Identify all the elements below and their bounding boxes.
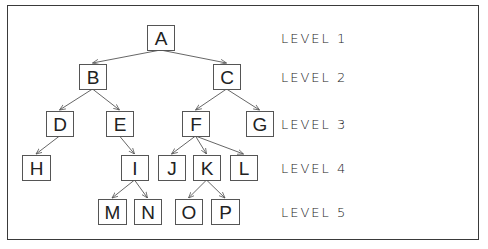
node-label: A — [155, 28, 168, 49]
node-label: P — [219, 202, 232, 223]
node-label: G — [253, 114, 268, 135]
node-k: K — [194, 156, 221, 181]
node-label: K — [201, 158, 214, 179]
edge-k-o — [189, 180, 207, 198]
node-label: M — [105, 202, 121, 223]
node-label: F — [190, 114, 202, 135]
edge-e-i — [120, 136, 135, 154]
node-i: I — [122, 156, 149, 181]
nodes-group: ABCDEFGHIJKLMNOP — [23, 26, 274, 225]
level-label-2: LEVEL 2 — [281, 70, 347, 85]
node-label: I — [132, 158, 137, 179]
node-b: B — [80, 65, 107, 90]
edge-i-m — [112, 180, 135, 198]
node-label: O — [182, 202, 197, 223]
node-label: H — [30, 158, 44, 179]
node-label: B — [87, 67, 100, 88]
node-j: J — [159, 156, 186, 181]
edge-c-g — [227, 89, 260, 110]
node-label: J — [167, 158, 177, 179]
node-label: L — [239, 158, 250, 179]
node-label: D — [53, 114, 67, 135]
node-o: O — [176, 200, 203, 225]
level-label-5: LEVEL 5 — [281, 205, 347, 220]
node-label: C — [220, 67, 234, 88]
node-a: A — [148, 26, 175, 51]
node-n: N — [135, 200, 162, 225]
edge-k-p — [207, 180, 226, 198]
node-h: H — [23, 156, 51, 181]
level-label-4: LEVEL 4 — [281, 161, 347, 176]
node-e: E — [107, 112, 134, 137]
edge-a-b — [93, 50, 161, 63]
edge-b-d — [60, 89, 93, 110]
edge-b-e — [93, 89, 120, 110]
edge-f-k — [196, 136, 207, 154]
node-l: L — [231, 156, 258, 181]
edge-c-f — [196, 89, 227, 110]
node-label: N — [141, 202, 155, 223]
edge-i-n — [135, 180, 148, 198]
node-c: C — [214, 65, 241, 90]
level-label-3: LEVEL 3 — [281, 117, 347, 132]
node-d: D — [47, 112, 74, 137]
edge-f-l — [196, 136, 244, 154]
tree-diagram: ABCDEFGHIJKLMNOP LEVEL 1LEVEL 2LEVEL 3LE… — [0, 0, 488, 249]
edge-a-c — [161, 50, 227, 63]
node-f: F — [183, 112, 210, 137]
edge-f-j — [172, 136, 196, 154]
level-label-1: LEVEL 1 — [281, 31, 347, 46]
node-p: P — [212, 200, 240, 225]
level-labels-group: LEVEL 1LEVEL 2LEVEL 3LEVEL 4LEVEL 5 — [281, 31, 347, 220]
node-m: M — [99, 200, 127, 225]
edge-d-h — [36, 136, 60, 154]
node-g: G — [247, 112, 274, 137]
node-label: E — [114, 114, 127, 135]
